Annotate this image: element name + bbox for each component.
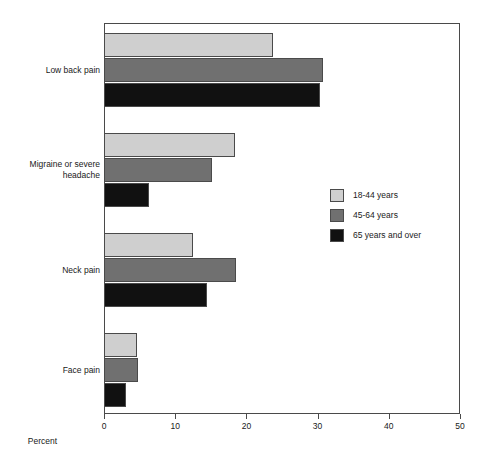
chart-legend: 18-44 years45-64 years65 years and over <box>330 185 460 245</box>
legend-label: 45-64 years <box>353 210 398 220</box>
bar <box>104 158 212 182</box>
x-axis-tick-mark <box>460 414 461 419</box>
bar-chart: Low back painMigraine or severe headache… <box>0 0 485 476</box>
x-axis-tick-label: 20 <box>242 421 251 431</box>
legend-label: 18-44 years <box>353 190 398 200</box>
y-axis-category-label: Low back pain <box>4 65 100 76</box>
y-axis-category-label: Neck pain <box>4 265 100 276</box>
legend-swatch <box>330 229 344 242</box>
legend-item: 18-44 years <box>330 185 460 205</box>
legend-swatch <box>330 209 344 222</box>
x-axis-tick-label: 30 <box>313 421 322 431</box>
x-axis-title: Percent <box>0 436 485 446</box>
bar <box>104 183 149 207</box>
bar <box>104 233 193 257</box>
y-axis-labels: Low back painMigraine or severe headache… <box>0 0 100 476</box>
x-axis-tick-mark <box>318 414 319 419</box>
bar <box>104 258 236 282</box>
x-axis-tick-label: 0 <box>102 421 107 431</box>
legend-item: 65 years and over <box>330 225 460 245</box>
x-axis-tick-label: 10 <box>170 421 179 431</box>
x-axis-tick-mark <box>104 414 105 419</box>
bar <box>104 283 207 307</box>
y-axis-category-label: Migraine or severe headache <box>4 159 100 181</box>
legend-label: 65 years and over <box>353 230 421 240</box>
x-axis-tick-label: 50 <box>455 421 464 431</box>
legend-item: 45-64 years <box>330 205 460 225</box>
x-axis-tick-mark <box>389 414 390 419</box>
bar <box>104 358 138 382</box>
bar <box>104 383 126 407</box>
bar <box>104 33 273 57</box>
x-axis-tick-mark <box>246 414 247 419</box>
y-axis-category-label: Face pain <box>4 365 100 376</box>
bar <box>104 133 235 157</box>
x-axis-title-text: Percent <box>28 436 57 446</box>
bar <box>104 333 137 357</box>
bar <box>104 58 323 82</box>
x-axis-ticks: 01020304050 <box>0 414 485 438</box>
x-axis-tick-mark <box>175 414 176 419</box>
x-axis-tick-label: 40 <box>384 421 393 431</box>
bar <box>104 83 320 107</box>
legend-swatch <box>330 189 344 202</box>
